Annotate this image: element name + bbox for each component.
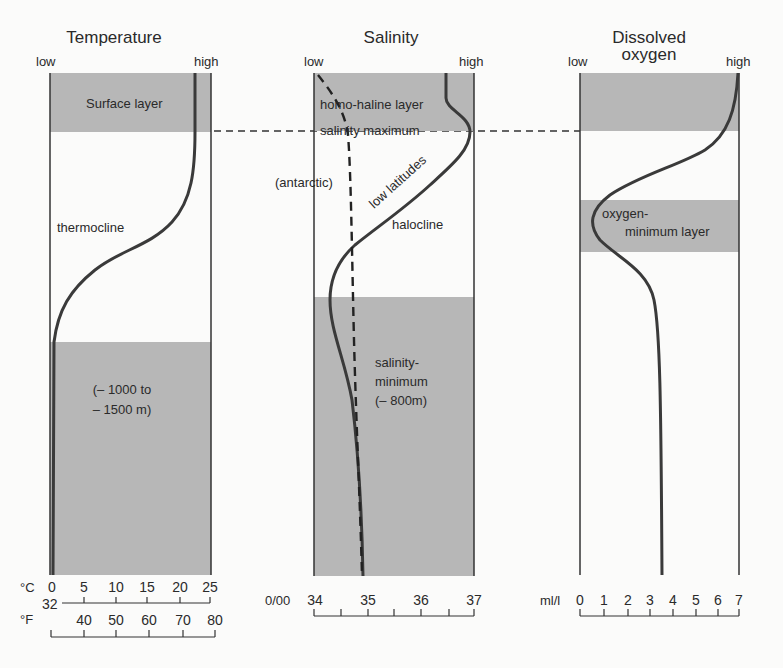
fahrenheit-32-label: 32 <box>42 596 58 612</box>
svg-text:5: 5 <box>692 592 700 608</box>
fahrenheit-axis <box>51 630 215 637</box>
oxygen-minimum-label-1: oxygen- <box>602 206 648 221</box>
svg-text:15: 15 <box>139 579 155 595</box>
temperature-low-label: low <box>36 54 56 69</box>
salinity-low-label: low <box>304 54 324 69</box>
svg-text:3: 3 <box>646 592 654 608</box>
oxygen-low-label: low <box>568 54 588 69</box>
fahrenheit-tick-labels: 40 50 60 70 80 <box>76 612 223 628</box>
svg-text:7: 7 <box>735 592 743 608</box>
svg-text:35: 35 <box>360 592 376 608</box>
svg-text:50: 50 <box>108 612 124 628</box>
salinity-minimum-band <box>314 297 474 576</box>
svg-text:37: 37 <box>466 592 482 608</box>
oxygen-high-label: high <box>726 54 751 69</box>
oxygen-tick-labels: 0 1 2 3 4 5 6 7 <box>576 592 743 608</box>
salinity-tick-labels: 34 35 36 37 <box>307 592 482 608</box>
svg-text:4: 4 <box>669 592 677 608</box>
deep-depth-label-2: – 1500 m) <box>93 402 152 417</box>
temperature-panel: Temperature low high Surface layer therm… <box>20 28 223 637</box>
oxygen-minimum-label-2: minimum layer <box>625 224 710 239</box>
low-latitudes-label: low latitudes <box>366 152 430 211</box>
oxygen-unit: ml/l <box>540 593 560 608</box>
halocline-label: halocline <box>392 217 443 232</box>
oxygen-title-line2: oxygen <box>622 45 677 64</box>
celsius-tick-labels: 0 5 10 15 20 25 <box>48 579 218 595</box>
oxygen-panel: Dissolved oxygen low high oxygen- minimu… <box>540 28 751 616</box>
salinity-unit: 0/00 <box>265 593 290 608</box>
temperature-title: Temperature <box>66 28 161 47</box>
antarctic-label: (antarctic) <box>275 175 333 190</box>
salinity-minimum-label-2: minimum <box>375 374 428 389</box>
svg-text:70: 70 <box>175 612 191 628</box>
oxygen-surface-band <box>580 73 739 131</box>
celsius-unit: °C <box>20 580 35 595</box>
salinity-title: Salinity <box>364 28 419 47</box>
temperature-high-label: high <box>194 54 219 69</box>
svg-text:25: 25 <box>202 579 218 595</box>
svg-text:0: 0 <box>48 579 56 595</box>
salinity-high-label: high <box>459 54 484 69</box>
oxygen-profile-line <box>593 73 738 575</box>
svg-text:40: 40 <box>76 612 92 628</box>
svg-text:36: 36 <box>413 592 429 608</box>
deep-depth-label-1: (– 1000 to <box>93 382 152 397</box>
svg-text:0: 0 <box>576 592 584 608</box>
ocean-profiles-figure: Temperature low high Surface layer therm… <box>0 0 783 668</box>
svg-text:1: 1 <box>600 592 608 608</box>
svg-text:6: 6 <box>714 592 722 608</box>
svg-text:5: 5 <box>80 579 88 595</box>
salinity-panel: Salinity low high homo-haline layer sali… <box>265 28 484 616</box>
deep-layer-band <box>50 342 211 575</box>
svg-text:20: 20 <box>172 579 188 595</box>
fahrenheit-unit: °F <box>20 612 33 627</box>
thermocline-label: thermocline <box>57 220 124 235</box>
svg-text:10: 10 <box>108 579 124 595</box>
svg-text:2: 2 <box>624 592 632 608</box>
salinity-minimum-label-3: (– 800m) <box>375 393 427 408</box>
svg-text:80: 80 <box>207 612 223 628</box>
salinity-minimum-label-1: salinity- <box>375 355 419 370</box>
svg-text:34: 34 <box>307 592 323 608</box>
svg-text:60: 60 <box>141 612 157 628</box>
salinity-axis <box>314 609 474 616</box>
surface-layer-label: Surface layer <box>86 96 163 111</box>
homohaline-label: homo-haline layer <box>320 97 424 112</box>
salinity-maximum-label: salinity maximum <box>320 123 420 138</box>
celsius-axis <box>62 597 210 603</box>
oxygen-axis <box>580 609 739 616</box>
